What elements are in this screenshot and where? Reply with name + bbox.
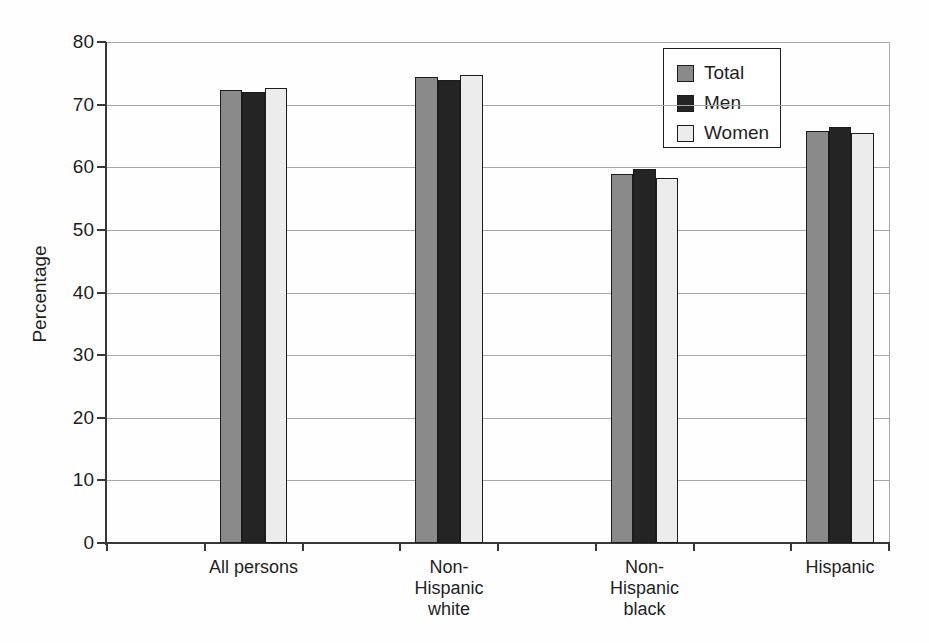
y-tick-10 [97, 479, 106, 481]
gridline-80 [107, 42, 889, 43]
legend-label-men: Men [704, 92, 741, 114]
x-category-label-2: Non-Hispanicwhite [415, 557, 484, 620]
legend: TotalMenWomen [663, 48, 781, 148]
bar-men-3 [633, 169, 656, 544]
legend-label-total: Total [704, 62, 744, 84]
bar-total-2 [415, 77, 438, 543]
x-category-label-3: Non-Hispanicblack [610, 557, 679, 620]
y-tick-label-70: 70 [38, 94, 94, 116]
x-tick-5 [595, 543, 597, 551]
y-tick-20 [97, 417, 106, 419]
y-tick-label-10: 10 [38, 469, 94, 491]
x-tick-3 [399, 543, 401, 551]
y-tick-50 [97, 229, 106, 231]
x-tick-4 [497, 543, 499, 551]
y-tick-label-20: 20 [38, 407, 94, 429]
y-tick-label-50: 50 [38, 219, 94, 241]
x-tick-7 [790, 543, 792, 551]
bar-women-4 [851, 133, 874, 543]
bar-chart-figure: Percentage TotalMenWomen 010203040506070… [0, 0, 929, 643]
legend-item-women: Women [677, 118, 780, 148]
legend-swatch-total [677, 65, 694, 82]
x-tick-0 [106, 543, 108, 551]
x-category-label-1: All persons [209, 557, 298, 578]
bar-men-2 [438, 80, 461, 543]
y-tick-40 [97, 292, 106, 294]
y-tick-label-80: 80 [38, 31, 94, 53]
x-tick-1 [204, 543, 206, 551]
x-tick-8 [888, 543, 890, 551]
x-tick-6 [693, 543, 695, 551]
legend-swatch-men [677, 95, 694, 112]
y-tick-80 [97, 41, 106, 43]
bar-total-3 [611, 174, 634, 543]
bar-men-4 [829, 127, 852, 543]
bar-women-1 [265, 88, 288, 543]
bar-men-1 [242, 92, 265, 543]
legend-swatch-women [677, 125, 694, 142]
y-tick-label-0: 0 [38, 532, 94, 554]
x-category-label-4: Hispanic [806, 557, 875, 578]
bar-total-4 [806, 131, 829, 543]
legend-item-total: Total [677, 58, 780, 88]
y-tick-label-30: 30 [38, 344, 94, 366]
x-tick-2 [302, 543, 304, 551]
y-tick-30 [97, 354, 106, 356]
plot-right-border [889, 42, 890, 544]
bar-women-2 [460, 75, 483, 543]
bar-total-1 [220, 90, 243, 543]
legend-item-men: Men [677, 88, 780, 118]
y-tick-label-60: 60 [38, 156, 94, 178]
legend-label-women: Women [704, 122, 769, 144]
y-tick-label-40: 40 [38, 282, 94, 304]
bar-women-3 [656, 178, 679, 543]
y-tick-70 [97, 104, 106, 106]
y-tick-60 [97, 166, 106, 168]
